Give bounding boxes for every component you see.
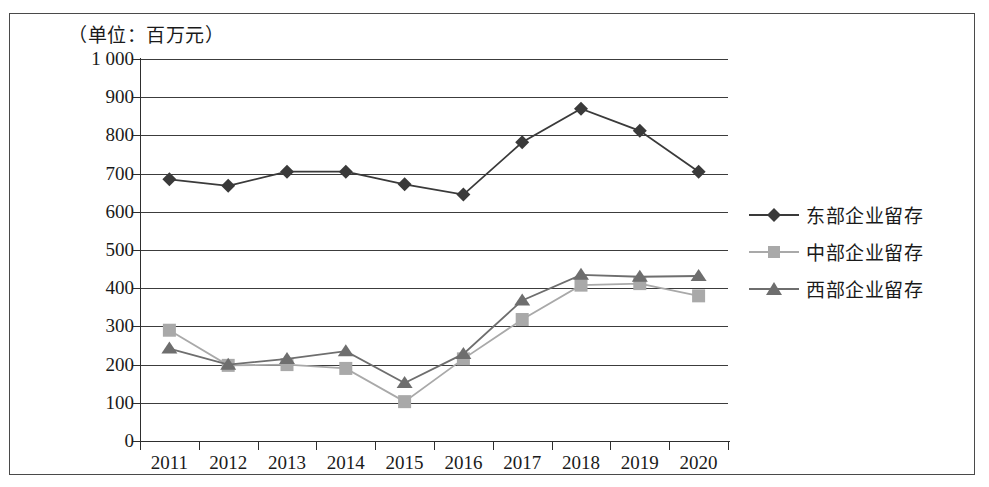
x-axis-tick-label: 2020 (680, 452, 718, 474)
chart-legend: 东部企业留存 中部企业留存 西部企业留存 (748, 196, 978, 307)
gridline (140, 174, 728, 175)
gridline (140, 365, 728, 366)
y-axis-tick-label: 400 (106, 277, 135, 299)
y-axis-tick-label: 900 (106, 86, 135, 108)
gridline (140, 326, 728, 327)
y-axis-tick-label: 800 (106, 124, 135, 146)
y-axis-line (140, 58, 141, 442)
gridline (140, 212, 728, 213)
y-axis-tick (133, 212, 140, 213)
x-axis-tick-label: 2011 (151, 452, 188, 474)
y-axis-tick (133, 59, 140, 60)
x-axis-tick-label: 2019 (621, 452, 659, 474)
x-axis-tick-label: 2013 (268, 452, 306, 474)
gridline (140, 288, 728, 289)
x-axis-tick (669, 441, 670, 450)
y-axis-tick-label: 600 (106, 201, 135, 223)
legend-item-west: 西部企业留存 (748, 270, 978, 307)
y-axis-tick (133, 135, 140, 136)
y-axis-tick-label: 500 (106, 239, 135, 261)
x-axis-tick (316, 441, 317, 450)
x-axis-tick (258, 441, 259, 450)
x-axis-tick (375, 441, 376, 450)
square-marker-icon (748, 242, 800, 262)
legend-item-east: 东部企业留存 (748, 196, 978, 233)
y-axis-tick (133, 326, 140, 327)
x-axis-tick (199, 441, 200, 450)
x-axis-tick (493, 441, 494, 450)
y-axis-tick-label: 200 (106, 354, 135, 376)
triangle-marker-icon (748, 279, 800, 299)
x-axis-tick-label: 2018 (562, 452, 600, 474)
x-axis-tick-label: 2016 (444, 452, 482, 474)
legend-label-east: 东部企业留存 (806, 201, 923, 228)
y-axis-tick-label: 300 (106, 315, 135, 337)
y-axis-tick (133, 441, 140, 442)
chart-figure: （单位：百万元） 1 00090080070060050040030020010… (0, 0, 989, 487)
x-axis-tick (610, 441, 611, 450)
gridline (140, 403, 728, 404)
y-axis-tick (133, 365, 140, 366)
gridline (140, 59, 728, 60)
gridline (140, 250, 728, 251)
plot-area (140, 59, 728, 441)
x-axis-tick (434, 441, 435, 450)
x-axis-line (140, 441, 730, 442)
y-axis-tick-label: 100 (106, 392, 135, 414)
y-axis-tick-labels: 1 0009008007006005004003002001000 (58, 0, 134, 487)
diamond-marker-icon (748, 205, 800, 225)
x-axis-tick (140, 441, 141, 450)
y-axis-tick (133, 403, 140, 404)
legend-label-central: 中部企业留存 (806, 238, 923, 265)
y-axis-tick (133, 250, 140, 251)
x-axis-tick-label: 2012 (209, 452, 247, 474)
legend-item-central: 中部企业留存 (748, 233, 978, 270)
x-axis-tick (552, 441, 553, 450)
gridline (140, 97, 728, 98)
x-axis-tick-label: 2017 (503, 452, 541, 474)
y-axis-tick-label: 1 000 (91, 48, 134, 70)
legend-label-west: 西部企业留存 (806, 275, 923, 302)
x-axis-tick (728, 441, 729, 450)
y-axis-tick (133, 174, 140, 175)
x-axis-tick-label: 2015 (386, 452, 424, 474)
x-axis-tick-label: 2014 (327, 452, 365, 474)
y-axis-tick-label: 700 (106, 163, 135, 185)
y-axis-tick (133, 288, 140, 289)
y-axis-tick (133, 97, 140, 98)
gridline (140, 135, 728, 136)
